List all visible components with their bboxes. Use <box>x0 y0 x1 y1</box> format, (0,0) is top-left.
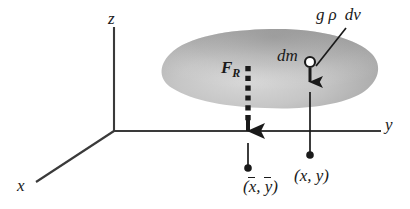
density-symbol: ρ <box>329 5 337 24</box>
figure-vector-layer <box>0 0 410 209</box>
centroid-paren-close: ) <box>272 177 278 196</box>
centroid-separator: , <box>256 177 265 196</box>
gravity-symbol: g <box>316 5 325 24</box>
resultant-force-label: FR <box>221 59 240 79</box>
point-paren-close: ) <box>323 166 329 185</box>
axis-label-z: z <box>108 10 115 27</box>
centroid-y-bar: y <box>265 178 273 195</box>
mass-element-label: dm <box>277 47 298 64</box>
body-blob <box>162 29 379 109</box>
centroid-coordinates-label: (x, y) <box>243 178 278 195</box>
centroid-dot-marker <box>244 164 252 172</box>
point-dot-marker <box>306 151 314 159</box>
element-weight-label: gρdv <box>316 6 361 23</box>
resultant-force-symbol: F <box>221 58 232 77</box>
axis-x <box>36 131 114 182</box>
axis-label-x: x <box>17 177 25 194</box>
figure-canvas: z y x FR dm gρdv (x, y) (x, y) <box>0 0 410 209</box>
resultant-force-subscript: R <box>232 66 240 80</box>
volume-element-symbol: dv <box>345 5 361 24</box>
axis-label-y: y <box>385 116 393 133</box>
point-coordinates-label: (x, y) <box>294 167 329 184</box>
dm-open-circle-marker <box>305 57 315 67</box>
centroid-x-bar: x <box>249 178 257 195</box>
point-separator: , <box>307 166 316 185</box>
